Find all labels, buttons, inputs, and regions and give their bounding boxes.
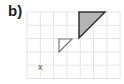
- small-triangle: [59, 39, 72, 52]
- grid-diagram: x: [0, 0, 124, 84]
- center-marker-x: x: [38, 62, 43, 72]
